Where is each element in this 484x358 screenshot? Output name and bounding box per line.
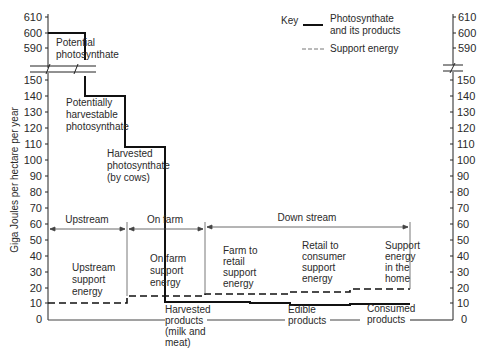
tick-100-right: 100 [457, 154, 475, 166]
tick-50: 50 [30, 234, 42, 246]
label-r2c-3: support [302, 262, 336, 273]
tick-140-right: 140 [457, 90, 475, 102]
tick-70: 70 [30, 202, 42, 214]
tick-120-right: 120 [457, 122, 475, 134]
tick-100: 100 [24, 154, 42, 166]
tick-90: 90 [30, 170, 42, 182]
tick-50-right: 50 [457, 234, 469, 246]
tick-110: 110 [24, 138, 42, 150]
label-f2r-2: retail [223, 256, 245, 267]
label-home-2: energy [385, 251, 416, 262]
tick-600: 600 [24, 27, 42, 39]
label-hp-1: Harvested [165, 304, 211, 315]
label-f2r-3: support [223, 267, 257, 278]
label-f2r-4: energy [223, 278, 254, 289]
tick-590: 590 [24, 42, 42, 54]
label-potential-1: Potential [56, 37, 95, 48]
axis-break-left [30, 64, 96, 74]
label-edible-2: products [288, 315, 326, 326]
tick-20: 20 [30, 282, 42, 294]
label-home-1: Support [385, 240, 420, 251]
label-harvestable-1: Potentially [66, 97, 112, 108]
tick-40: 40 [30, 250, 42, 262]
tick-30: 30 [30, 266, 42, 278]
tick-110-right: 110 [457, 138, 475, 150]
tick-610-right: 610 [458, 11, 476, 23]
tick-10-right: 10 [457, 297, 469, 309]
legend-solid-label-1: Photosynthate [330, 13, 394, 24]
tick-600-right: 600 [458, 27, 476, 39]
axis-break-right [443, 63, 463, 73]
label-consumed-1: Consumed [367, 303, 415, 314]
label-farm-support-1: On farm [150, 253, 186, 264]
label-r2c-2: consumer [302, 251, 347, 262]
right-tick-labels: 610 600 590 150 140 130 120 110 100 90 8… [457, 11, 476, 325]
label-r2c-4: energy [302, 273, 333, 284]
label-harvested-1: Harvested [107, 148, 153, 159]
tick-130-right: 130 [457, 106, 475, 118]
tick-80-right: 80 [457, 186, 469, 198]
label-harvested-2: photosynthate [107, 160, 170, 171]
label-edible-1: Edible [288, 304, 316, 315]
tick-60-right: 60 [457, 218, 469, 230]
legend-title: Key [281, 15, 298, 26]
tick-120: 120 [24, 122, 42, 134]
label-r2c-1: Retail to [302, 240, 339, 251]
tick-60: 60 [30, 218, 42, 230]
legend-solid-label-2: and its products [330, 25, 401, 36]
right-y-axis [410, 14, 456, 320]
tick-610: 610 [24, 11, 42, 23]
stage-upstream: Upstream [65, 214, 108, 225]
label-up-support-3: energy [72, 286, 103, 297]
label-potential-2: photosynthate [56, 49, 119, 60]
tick-150: 150 [24, 74, 42, 86]
tick-20-right: 20 [457, 282, 469, 294]
photosynthate-annotations: Potential photosynthate Potentially harv… [56, 37, 170, 183]
tick-90-right: 90 [457, 170, 469, 182]
label-home-3: in the [385, 262, 410, 273]
label-farm-support-2: support [150, 265, 184, 276]
stage-arrows [50, 225, 408, 231]
tick-30-right: 30 [457, 266, 469, 278]
legend: Key Photosynthate and its products Suppo… [281, 13, 401, 54]
left-tick-labels: 610 600 590 150 140 130 120 110 100 90 8… [24, 11, 42, 325]
label-harvestable-3: photosynthate [66, 121, 129, 132]
label-hp-2: products [165, 315, 203, 326]
tick-40-right: 40 [457, 250, 469, 262]
label-home-4: home [385, 273, 410, 284]
label-hp-4: meat) [165, 337, 191, 348]
energy-flow-chart: 610 600 590 150 140 130 120 110 100 90 8… [0, 0, 484, 358]
product-annotations: Harvested products (milk and meat) Edibl… [165, 303, 415, 348]
label-f2r-1: Farm to [223, 245, 258, 256]
tick-150-right: 150 [457, 74, 475, 86]
label-farm-support-3: energy [150, 277, 181, 288]
tick-80: 80 [30, 186, 42, 198]
label-harvested-3: (by cows) [107, 172, 150, 183]
label-up-support-2: support [72, 274, 106, 285]
tick-590-right: 590 [458, 42, 476, 54]
label-harvestable-2: harvestable [66, 109, 118, 120]
label-hp-3: (milk and [165, 326, 206, 337]
y-axis-title: Giga Joules per hectare per year [9, 107, 20, 253]
legend-dashed-label: Support energy [330, 43, 398, 54]
tick-70-right: 70 [457, 202, 469, 214]
label-consumed-2: products [367, 314, 405, 325]
tick-0: 0 [36, 313, 42, 325]
tick-130: 130 [24, 106, 42, 118]
tick-10: 10 [30, 297, 42, 309]
tick-140: 140 [24, 90, 42, 102]
stage-on-farm: On farm [147, 214, 183, 225]
label-up-support-1: Upstream [72, 262, 115, 273]
tick-0-right: 0 [461, 313, 467, 325]
left-y-axis [45, 14, 48, 320]
stage-down-stream: Down stream [278, 212, 337, 223]
